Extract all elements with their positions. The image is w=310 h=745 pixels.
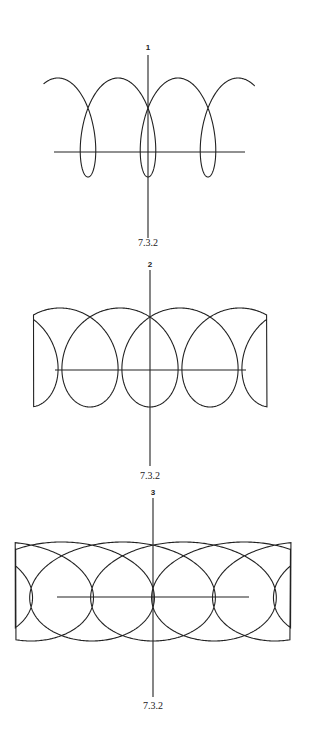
figure-caption: 7.3.2 xyxy=(138,237,158,248)
figure-3: 3 7.3.2 xyxy=(15,488,291,711)
figure-1: 1 7.3.2 xyxy=(44,43,255,248)
figure-number-label: 3 xyxy=(151,488,156,497)
figure-number-label: 2 xyxy=(148,260,153,269)
trochoid-figure-sheet: 1 7.3.2 2 7.3.2 3 7.3.2 xyxy=(0,0,310,745)
figure-number-label: 1 xyxy=(146,43,151,52)
figure-caption: 7.3.2 xyxy=(143,700,163,711)
figure-caption: 7.3.2 xyxy=(140,470,160,481)
figure-2: 2 7.3.2 xyxy=(33,260,267,481)
trochoid-curve xyxy=(44,78,255,177)
